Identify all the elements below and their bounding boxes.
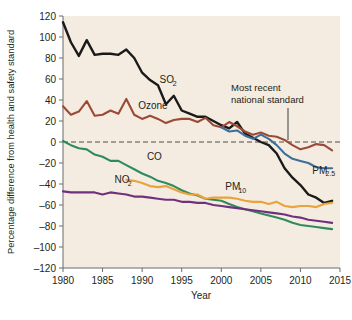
air-quality-trend-chart: 120100806040200–20–40–60–80–100–120 1980… (0, 0, 352, 320)
y-tick-label: –40 (39, 179, 56, 190)
x-tick-label: 1985 (91, 275, 114, 286)
chart-figure: 120100806040200–20–40–60–80–100–120 1980… (0, 0, 352, 320)
y-tick-label: 60 (45, 74, 57, 85)
x-tick-label: 2000 (210, 275, 233, 286)
series-label-no2: NO2 (114, 174, 131, 187)
y-axis-title: Percentage difference from health and sa… (6, 30, 16, 254)
y-tick-label: –120 (34, 263, 57, 274)
series-label-subscript: 2 (128, 180, 132, 187)
x-tick-label: 2005 (250, 275, 273, 286)
y-tick-label: –60 (39, 200, 56, 211)
series-label-text: CO (147, 151, 162, 162)
series-label-co: CO (147, 151, 162, 162)
y-tick-label: 120 (39, 11, 56, 22)
annotation-line-2: national standard (231, 94, 304, 105)
series-label-subscript: 2 (173, 80, 177, 87)
x-axis-title: Year (191, 290, 212, 301)
x-tick-label: 2010 (289, 275, 312, 286)
series-label-subscript: 2.5 (326, 170, 336, 177)
y-tick-label: 40 (45, 95, 57, 106)
x-tick-label: 1990 (131, 275, 154, 286)
y-tick-label: –100 (34, 242, 57, 253)
y-tick-label: –20 (39, 158, 56, 169)
y-tick-label: 0 (50, 137, 56, 148)
series-label-ozone: Ozone (138, 100, 168, 111)
series-label-subscript: 10 (238, 187, 246, 194)
x-tick-label: 2015 (329, 275, 352, 286)
annotation-line-1: Most recent (231, 82, 281, 93)
x-tick-label: 1980 (52, 275, 75, 286)
series-label-text: Ozone (138, 100, 168, 111)
y-tick-label: 100 (39, 32, 56, 43)
y-tick-label: 20 (45, 116, 57, 127)
y-tick-label: 80 (45, 53, 57, 64)
y-tick-label: –80 (39, 221, 56, 232)
x-tick-label: 1995 (171, 275, 194, 286)
